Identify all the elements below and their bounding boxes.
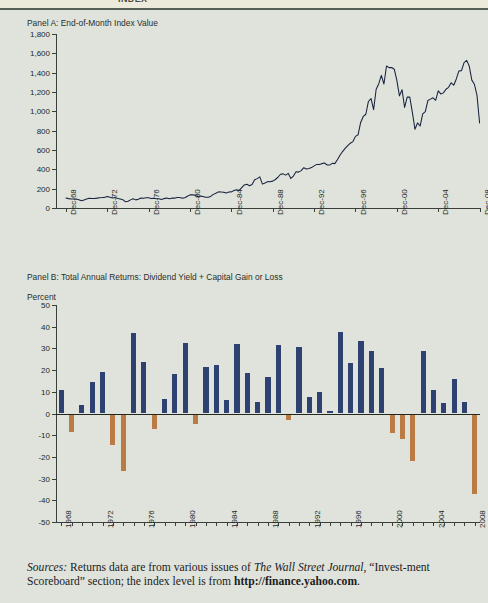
panel-b-x-tickmark [392, 522, 393, 526]
panel-b-bar [369, 351, 374, 413]
panel-b-bar [141, 362, 146, 414]
panel-b-bar [234, 344, 239, 414]
panel-b-x-tickmark [351, 522, 352, 526]
panel-b-x-tick-label: 1976 [147, 510, 156, 528]
panel-b-y-tickmark [52, 305, 56, 306]
panel-b-x-tickmark [433, 522, 434, 526]
panel-b-x-tickmark [454, 522, 455, 526]
panel-b-x-tick-label: 1980 [188, 510, 197, 528]
panel-b-x-tick-label: 1968 [64, 510, 73, 528]
panel-b-y-tickmark [52, 500, 56, 501]
panel-b-bar [452, 379, 457, 413]
panel-b-x-tickmark [268, 522, 269, 526]
panel-b-bar [59, 390, 64, 414]
panel-b-bar [348, 363, 353, 413]
panel-b-bar [431, 390, 436, 414]
panel-b-y-tick-label: 0 [12, 409, 50, 418]
panel-b-bar [100, 372, 105, 413]
panel-b-bar [121, 414, 126, 472]
panel-b-bar [131, 333, 136, 414]
panel-b-y-tick-label: 30 [12, 344, 50, 353]
panel-b-x-tickmark [423, 522, 424, 526]
panel-b-bar [203, 367, 208, 413]
panel-b-bar [152, 414, 157, 430]
panel-b-x-tickmark [247, 522, 248, 526]
source-text-3: . [357, 575, 360, 588]
panel-b-bar [265, 377, 270, 413]
panel-b-y-tick-label: 50 [12, 301, 50, 310]
panel-b-x-tick-label: 1996 [354, 510, 363, 528]
panel-b-bar [317, 392, 322, 414]
panel-b-bar [338, 332, 343, 413]
panel-b-x-tickmark [216, 522, 217, 526]
source-journal-name: The Wall Street Journal [254, 561, 364, 574]
panel-b-bar [214, 365, 219, 414]
panel-b-bar [193, 414, 198, 425]
panel-b-x-tickmark [175, 522, 176, 526]
panel-b-x-tick-label: 1988 [271, 510, 280, 528]
panel-b-x-tickmark [382, 522, 383, 526]
panel-b-bar [390, 414, 395, 434]
panel-b-bar [400, 414, 405, 440]
source-note: Sources: Returns data are from various i… [27, 561, 479, 589]
panel-b-bar [110, 414, 115, 446]
panel-b-bar [379, 368, 384, 414]
panel-b-y-tickmark [52, 435, 56, 436]
panel-b-bar [255, 402, 260, 413]
panel-b-x-tickmark [371, 522, 372, 526]
panel-b-x-tickmark [206, 522, 207, 526]
panel-b-x-tickmark [289, 522, 290, 526]
panel-b-x-tickmark [82, 522, 83, 526]
panel-b-bar [172, 374, 177, 414]
panel-b-bar [162, 399, 167, 413]
panel-b-y-tick-label: -20 [12, 452, 50, 461]
panel-b-bar [79, 405, 84, 414]
source-label: Sources: [27, 561, 67, 574]
panel-b-bar [276, 345, 281, 413]
panel-b-x-tickmark [61, 522, 62, 526]
panel-b-y-tick-label: -10 [12, 431, 50, 440]
panel-b-bar [462, 402, 467, 414]
panel-b-plot: 50403020100-10-20-30-40-5019681972197619… [0, 260, 488, 560]
panel-b-y-tickmark [52, 457, 56, 458]
panel-b-bar [90, 382, 95, 413]
panel-b-y-tick-label: -40 [12, 496, 50, 505]
panel-b-bar [245, 373, 250, 413]
panel-b-y-tickmark [52, 327, 56, 328]
panel-b-bar [307, 397, 312, 414]
panel-b-x-tickmark [340, 522, 341, 526]
panel-b-bar [183, 343, 188, 413]
panel-b-x-tickmark [185, 522, 186, 526]
panel-b-bar [224, 400, 229, 414]
panel-b-x-tick-label: 2004 [437, 510, 446, 528]
panel-b-x-tickmark [134, 522, 135, 526]
panel-b-y-tick-label: 10 [12, 387, 50, 396]
panel-b-x-tickmark [92, 522, 93, 526]
panel-b-x-tick-label: 1984 [230, 510, 239, 528]
panel-b-zero-line [56, 414, 480, 415]
source-url[interactable]: http://finance.yahoo.com [234, 575, 357, 588]
panel-b-bar [410, 414, 415, 462]
panel-a-plot: 02004006008001,0001,2001,4001,6001,800De… [0, 0, 488, 260]
panel-b-bar [441, 403, 446, 414]
panel-b-bar [358, 341, 363, 413]
panel-b-y-tick-label: -30 [12, 474, 50, 483]
panel-b-x-tickmark [165, 522, 166, 526]
panel-b-y-tickmark [52, 479, 56, 480]
index-value-series [66, 60, 480, 201]
panel-a-index-line [0, 0, 488, 260]
panel-b-x-tickmark [413, 522, 414, 526]
panel-b-x-tickmark [299, 522, 300, 526]
panel-b-bar [472, 414, 477, 494]
source-text-1: Returns data are from various issues of [67, 561, 254, 574]
panel-b-y-tick-label: 20 [12, 366, 50, 375]
panel-b-x-tickmark [144, 522, 145, 526]
panel-b-bar [421, 351, 426, 413]
panel-b-x-tickmark [309, 522, 310, 526]
panel-b-x-tick-label: 2000 [395, 510, 404, 528]
panel-b-y-tickmark [52, 370, 56, 371]
panel-b-x-tickmark [475, 522, 476, 526]
panel-b-x-tickmark [330, 522, 331, 526]
panel-b-x-tick-label: 1992 [313, 510, 322, 528]
panel-b-x-tickmark [103, 522, 104, 526]
